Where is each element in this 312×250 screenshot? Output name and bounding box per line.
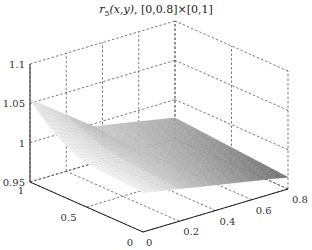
tick-label: 1.05 [3,98,25,109]
tick-label: 0.5 [61,212,77,223]
surface-plot: 0.9511.051.100.5100.20.40.60.8 [0,0,312,250]
tick-label: 1 [18,185,24,196]
tick-label: 1.1 [9,59,25,70]
surface-mesh [30,99,288,192]
tick-label: 0.8 [292,194,308,205]
tick-label: 0.4 [220,216,236,227]
tick-label: 0 [146,237,152,248]
tick-label: 0.6 [256,205,272,216]
tick-label: 1 [19,138,25,149]
tick-label: 0.2 [183,226,199,237]
tick-label: 0 [127,237,133,248]
